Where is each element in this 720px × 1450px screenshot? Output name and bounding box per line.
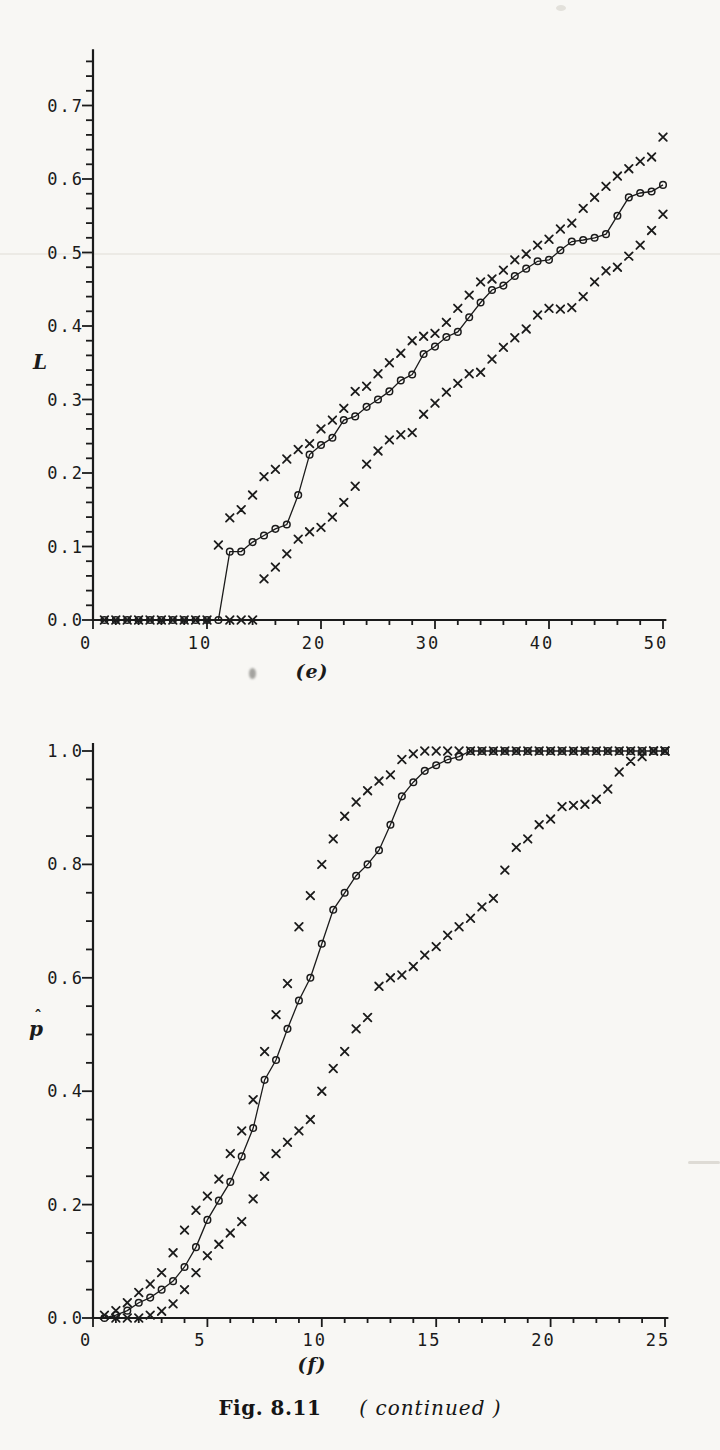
axes [93, 50, 665, 620]
chart-e: 010203040500.00.10.20.30.40.50.60.7L(e) [32, 50, 668, 682]
y-tick-label: 0.4 [47, 1081, 84, 1101]
marker-x [488, 355, 496, 363]
marker-x [272, 563, 280, 571]
y-tick-label: 0.7 [47, 96, 84, 116]
figure-caption: Fig. 8.11( continued ) [0, 1396, 720, 1420]
marker-x [387, 974, 395, 982]
marker-x [364, 787, 372, 795]
x-axis-labels: 0510152025 [80, 1330, 670, 1350]
marker-x [465, 370, 473, 378]
marker-x [363, 382, 371, 390]
x-tick-label: 20 [531, 1330, 555, 1350]
marker-x [410, 750, 418, 758]
marker-x [534, 241, 542, 249]
y-tick-label: 0.6 [47, 169, 84, 189]
marker-x [340, 405, 348, 413]
y-axis-title: L [32, 350, 47, 374]
marker-x [591, 194, 599, 202]
marker-x [522, 250, 530, 258]
marker-x [352, 1025, 360, 1033]
marker-x [341, 812, 349, 820]
marker-x [386, 436, 394, 444]
marker-x [352, 798, 360, 806]
y-tick-label: 0.8 [47, 854, 84, 874]
marker-x [477, 278, 485, 286]
marker-x [535, 821, 543, 829]
marker-x [283, 455, 291, 463]
marker-x [579, 293, 587, 301]
series-lower-band [112, 747, 669, 1322]
marker-x [408, 337, 416, 345]
marker-x [455, 923, 463, 931]
marker-x [500, 266, 508, 274]
marker-x [272, 1150, 280, 1158]
marker-x [397, 349, 405, 357]
x-tick-label: 10 [303, 1330, 327, 1350]
x-tick-label: 5 [194, 1330, 206, 1350]
marker-x [568, 219, 576, 227]
marker-x [318, 1087, 326, 1095]
series-estimate [101, 748, 668, 1322]
marker-x [181, 1226, 189, 1234]
marker-x [604, 785, 612, 793]
marker-x [307, 892, 315, 900]
marker-x [408, 429, 416, 437]
chart-f: 05101520250.00.20.40.60.81.0pˆ(f) [29, 741, 670, 1375]
marker-x [364, 1014, 372, 1022]
marker-x [249, 1096, 257, 1104]
marker-x [421, 951, 429, 959]
marker-x [477, 369, 485, 377]
marker-x [443, 388, 451, 396]
marker-x [501, 866, 509, 874]
x-tick-label: 30 [416, 633, 440, 653]
y-tick-label: 1.0 [47, 741, 84, 761]
series-lower-band [226, 210, 667, 623]
marker-x [593, 795, 601, 803]
marker-x [284, 980, 292, 988]
marker-x [467, 914, 475, 922]
marker-x [341, 1048, 349, 1056]
marker-x [557, 305, 565, 313]
marker-x [558, 803, 566, 811]
marker-x [272, 1011, 280, 1019]
marker-x [329, 835, 337, 843]
marker-x [431, 399, 439, 407]
marker-x [249, 491, 257, 499]
marker-x [317, 425, 325, 433]
marker-x [226, 514, 234, 522]
marker-x [307, 1116, 315, 1124]
marker-x [614, 172, 622, 180]
marker-x [522, 325, 530, 333]
marker-x [627, 757, 635, 765]
marker-x [261, 1172, 269, 1180]
marker-x [420, 332, 428, 340]
figure-caption-continued: ( continued ) [359, 1396, 501, 1420]
y-tick-label: 0.2 [47, 1195, 84, 1215]
marker-x [398, 756, 406, 764]
axes [93, 744, 667, 1318]
marker-x [226, 1229, 234, 1237]
marker-x [261, 1048, 269, 1056]
x-tick-label: 40 [530, 633, 554, 653]
marker-x [602, 267, 610, 275]
marker-x [295, 1127, 303, 1135]
series-estimate [101, 182, 666, 624]
marker-x [124, 1299, 132, 1307]
marker-x [386, 359, 394, 367]
marker-x [579, 205, 587, 213]
marker-x [294, 535, 302, 543]
marker-x [570, 802, 578, 810]
marker-x [443, 319, 451, 327]
marker-x [545, 305, 553, 313]
marker-x [181, 1286, 189, 1294]
x-axis-labels: 01020304050 [80, 633, 668, 653]
marker-x [329, 513, 337, 521]
marker-x [432, 943, 440, 951]
y-tick-label: 0.3 [47, 390, 84, 410]
y-tick-label: 0.0 [47, 1308, 84, 1328]
y-axis-labels: 0.00.20.40.60.81.0 [47, 741, 84, 1328]
marker-x [192, 1269, 200, 1277]
marker-x [410, 963, 418, 971]
marker-x [363, 460, 371, 468]
x-axis-ticks [93, 1318, 665, 1327]
